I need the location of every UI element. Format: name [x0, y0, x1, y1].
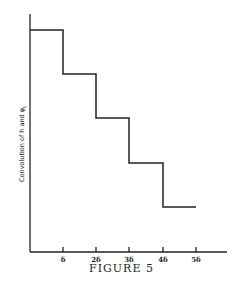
step-series: [30, 30, 196, 207]
x-ticks: [63, 247, 196, 252]
figure-caption: FIGURE 5: [0, 262, 243, 275]
step-chart: δ 2δ 3δ 4δ 5δ Convolution of h and φL: [0, 0, 243, 292]
y-axis-label: Convolution of h and φL: [18, 105, 27, 182]
